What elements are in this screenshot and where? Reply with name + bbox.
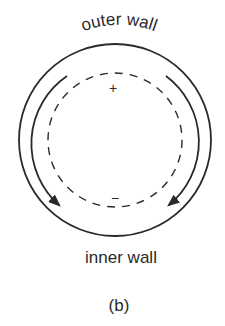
inner-wall-label: inner wall (85, 248, 157, 267)
outer-wall-label: outer wall (79, 10, 160, 35)
flow-arrow-left-icon (31, 76, 67, 205)
plus-sign: + (109, 80, 117, 96)
minus-sign: − (111, 190, 119, 206)
outer-wall-label-text: outer wall (79, 10, 160, 35)
figure-caption: (b) (109, 296, 130, 315)
diagram-figure: + − outer wall inner wall (b) (0, 0, 225, 326)
diagram-canvas: + − outer wall inner wall (b) (0, 0, 225, 326)
